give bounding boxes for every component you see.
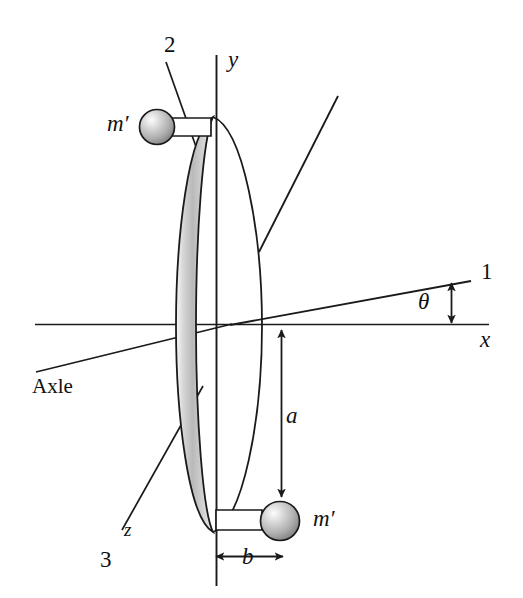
axle-line-group	[36, 324, 232, 372]
axle-line	[36, 324, 232, 372]
label-axis-y: y	[228, 48, 238, 71]
label-axis-z: z	[124, 520, 131, 539]
principal-axis-2-upper-line	[259, 96, 338, 252]
principal-axis-1-line	[230, 281, 471, 325]
label-axis-x: x	[480, 328, 490, 351]
top-mass-sphere	[140, 110, 175, 145]
diagram-canvas	[0, 0, 523, 598]
label-mass-bottom: m′	[313, 507, 335, 530]
bottom-mass-sphere	[261, 502, 300, 541]
label-dimension-b: b	[242, 545, 254, 568]
bottom-mass-group	[216, 502, 300, 541]
label-axle: Axle	[32, 376, 73, 397]
label-dimension-a: a	[286, 404, 298, 427]
label-axis-1: 1	[481, 260, 493, 283]
top-mass-rod	[172, 118, 211, 136]
label-mass-top: m′	[107, 112, 129, 135]
bottom-mass-rod	[216, 510, 262, 530]
label-angle-theta: θ	[418, 290, 429, 313]
label-axis-2: 2	[164, 33, 176, 56]
axis-2-leader-line	[166, 62, 200, 158]
physics-diagram-tilted-disk-with-masses: 2 y m′ 1 θ x Axle a z m′ 3 b	[0, 0, 523, 598]
label-axis-3: 3	[100, 548, 112, 571]
